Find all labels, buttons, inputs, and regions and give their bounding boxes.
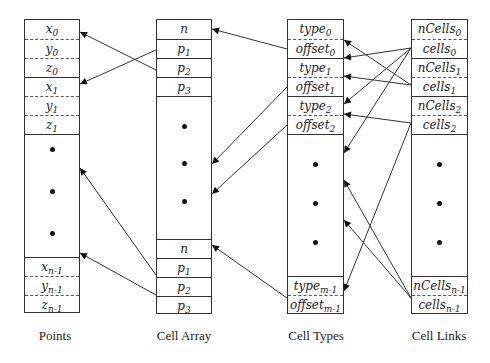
ellipsis-dot-icon: [50, 231, 55, 236]
cell-links-cell-nCells-0: nCells0: [412, 20, 467, 38]
cell-label: p: [177, 299, 185, 313]
arrow-cells2-to-offset2: [344, 114, 411, 123]
cell-subscript: 2: [185, 67, 191, 77]
cell-types-cell-type-m-1: typem-1: [288, 276, 343, 295]
cell-label: nCells: [418, 22, 456, 36]
cell-label: type: [294, 279, 320, 293]
cell-array-cell-p-2: p2: [157, 277, 211, 296]
cell-subscript: 1: [450, 86, 456, 96]
cell-subscript: 1: [330, 86, 336, 96]
cell-subscript: 1: [326, 67, 332, 77]
cell-links-cell-cells-n-1: cellsn-1: [412, 295, 467, 314]
arrow-offset-m-1-to-cell-array-lower-n: [212, 245, 287, 298]
cell-subscript: n-1: [48, 285, 63, 295]
cell-subscript: 1: [53, 86, 59, 96]
points-caption: Points: [0, 328, 110, 344]
cell-subscript: n-1: [48, 266, 63, 276]
points-cell-x-n-1: xn-1: [25, 257, 79, 276]
cell-label: offset: [296, 118, 330, 132]
cell-links-cell-nCells-2: nCells2: [412, 96, 467, 115]
cell-array-ellipsis-region: [157, 96, 211, 97]
cell-label: x: [46, 80, 53, 94]
points-cell-y-1: y1: [25, 96, 79, 115]
cell-subscript: 2: [326, 105, 332, 115]
cell-types-cell-type-1: type1: [288, 58, 343, 77]
cell-label: type: [299, 22, 325, 36]
cell-links-cell-nCells-1: nCells1: [412, 58, 467, 77]
ellipsis-dot-icon: [437, 201, 442, 206]
cell-array-cell-n: n: [157, 20, 211, 38]
cell-label: p: [177, 280, 185, 294]
cell-array: np1p2p3np1p2p3: [156, 19, 212, 314]
cell-label: type: [299, 99, 325, 113]
cell-label: cells: [423, 42, 451, 56]
points-cell-z-1: z1: [25, 115, 79, 134]
cell-types-cell-type-2: type2: [288, 96, 343, 115]
cell-links-caption: Cell Links: [384, 328, 490, 344]
cell-subscript: n-1: [48, 304, 63, 314]
cell-subscript: 3: [185, 305, 191, 315]
arrow-cells0-to-cell-types-middle: [344, 48, 411, 153]
ellipsis-dot-icon: [437, 240, 442, 245]
cell-label: n: [180, 22, 188, 36]
points-ellipsis-region: [25, 134, 79, 135]
cell-subscript: 1: [185, 48, 191, 58]
cell-subscript: 0: [52, 67, 58, 77]
arrow-offset1-to-cell-array-middle: [212, 87, 287, 164]
cell-subscript: 1: [53, 105, 59, 115]
arrow-cells-n-1-to-cell-types-middle-b: [344, 220, 411, 298]
cell-label: offset: [290, 298, 324, 312]
cell-label: n: [180, 242, 188, 256]
cell-subscript: n-1: [446, 304, 461, 314]
arrow-cells1-to-offset1: [344, 76, 411, 85]
arrow-cells0-to-offset0-a: [344, 48, 411, 58]
arrow-cells1-to-offset0: [344, 40, 411, 85]
cell-subscript: 0: [330, 48, 336, 58]
cell-subscript: 3: [185, 86, 191, 96]
cell-types-cell-offset-1: offset1: [288, 77, 343, 96]
ellipsis-dot-icon: [182, 124, 187, 129]
cell-subscript: 2: [456, 105, 462, 115]
ellipsis-dot-icon: [313, 240, 318, 245]
arrow-cell-array-p1-to-point-1: [80, 50, 156, 84]
cell-subscript: m-1: [324, 304, 341, 314]
arrow-cell-array-lower-p1-to-points-middle: [80, 168, 156, 275]
cell-links-cell-cells-0: cells0: [412, 39, 467, 58]
cell-subscript: m-1: [320, 285, 337, 295]
cell-types-ellipsis-region: [288, 134, 343, 135]
points-cell-z-n-1: zn-1: [25, 295, 79, 314]
cell-array-cell-p-1: p1: [157, 258, 211, 277]
cell-types-cell-offset-2: offset2: [288, 115, 343, 134]
cell-types-cell-offset-m-1: offsetm-1: [288, 295, 343, 314]
points-cell-y-n-1: yn-1: [25, 276, 79, 295]
cell-label: y: [46, 42, 53, 56]
ellipsis-dot-icon: [313, 162, 318, 167]
cell-label: p: [177, 261, 185, 275]
cell-links-cell-cells-2: cells2: [412, 115, 467, 134]
cell-subscript: 0: [53, 28, 59, 38]
cell-label: cells: [418, 298, 446, 312]
arrow-cells2-to-type-m-1: [344, 123, 411, 291]
vtk-cell-structure-diagram: x0y0z0x1y1z1xn-1yn-1zn-1 Points np1p2p3n…: [0, 0, 490, 363]
cell-types-array: type0offset0type1offset1type2offset2type…: [287, 19, 344, 314]
ellipsis-dot-icon: [182, 199, 187, 204]
cell-subscript: 1: [456, 67, 462, 77]
cell-label: cells: [423, 118, 451, 132]
cell-subscript: 1: [52, 124, 58, 134]
cell-links-array: nCells0cells0nCells1cells1nCells2cells2n…: [411, 19, 468, 314]
cell-array-cell-p-3: p3: [157, 296, 211, 315]
cell-label: cells: [423, 80, 451, 94]
cell-subscript: 0: [450, 48, 456, 58]
ellipsis-dot-icon: [50, 189, 55, 194]
points-cell-x-0: x0: [25, 20, 79, 38]
cell-subscript: 0: [53, 48, 59, 58]
cell-array-cell-p-2: p2: [157, 58, 211, 77]
cell-label: nCells: [418, 99, 456, 113]
cell-subscript: 2: [185, 286, 191, 296]
arrow-offset2-to-cell-array-middle: [212, 125, 287, 194]
cell-label: offset: [296, 42, 330, 56]
cell-label: nCells: [418, 61, 456, 75]
cell-label: x: [46, 22, 53, 36]
cell-links-cell-nCells-n-1: nCellsn-1: [412, 276, 467, 295]
cell-subscript: 2: [450, 124, 456, 134]
